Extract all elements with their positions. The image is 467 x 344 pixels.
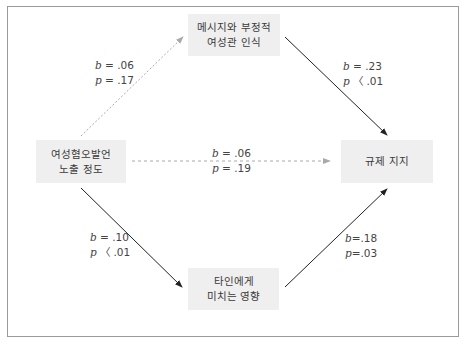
coef-top-right: b = .23 p 〈 .01 xyxy=(343,59,383,89)
node-mediator-top: 메시지와 부정적 여성관 인식 xyxy=(188,14,280,56)
node-label: 노출 정도 xyxy=(59,162,102,177)
node-label: 규제 지지 xyxy=(365,154,408,169)
coef-left-top: b = .06 p = .17 xyxy=(95,58,134,88)
node-label: 메시지와 부정적 xyxy=(197,20,270,35)
node-label: 여성관 인식 xyxy=(207,35,260,50)
node-label: 미치는 영향 xyxy=(207,289,260,304)
node-label: 타인에게 xyxy=(214,274,254,289)
coef-left-right: b = .06 p = .19 xyxy=(212,146,251,176)
coef-left-bottom: b = .10 p 〈 .01 xyxy=(90,230,130,260)
node-independent: 여성혐오발언 노출 정도 xyxy=(36,140,126,183)
coef-bottom-right: b=.18 p=.03 xyxy=(345,231,377,261)
node-dependent: 규제 지지 xyxy=(341,140,433,183)
node-label: 여성혐오발언 xyxy=(51,147,111,162)
node-mediator-bottom: 타인에게 미치는 영향 xyxy=(188,268,279,310)
